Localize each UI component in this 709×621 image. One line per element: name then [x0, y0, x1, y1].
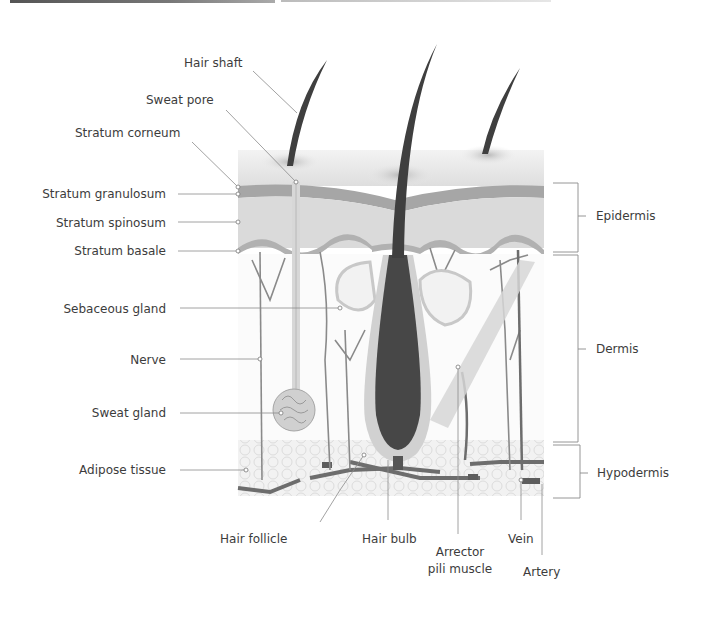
sweat-gland-coil	[273, 389, 315, 431]
label-arrector-pili-line2: pili muscle	[422, 562, 498, 576]
label-nerve: Nerve	[130, 353, 166, 367]
layer-brackets	[553, 183, 588, 498]
label-stratum-basale: Stratum basale	[74, 244, 166, 258]
epidermis-layers	[238, 185, 544, 260]
label-hair-shaft: Hair shaft	[184, 56, 242, 70]
label-sweat-pore: Sweat pore	[146, 93, 214, 107]
hair-shaft-right	[482, 68, 520, 154]
label-sebaceous-gland: Sebaceous gland	[64, 302, 167, 316]
label-stratum-spinosum: Stratum spinosum	[56, 216, 166, 230]
label-sweat-gland: Sweat gland	[92, 406, 166, 420]
label-artery: Artery	[523, 565, 560, 579]
label-hypodermis: Hypodermis	[597, 466, 669, 480]
label-arrector-pili-line1: Arrector	[430, 545, 490, 559]
label-stratum-granulosum: Stratum granulosum	[42, 187, 166, 201]
label-vein: Vein	[508, 532, 534, 546]
label-dermis: Dermis	[596, 342, 639, 356]
label-hair-follicle: Hair follicle	[220, 532, 287, 546]
skin-surface	[238, 145, 544, 187]
label-stratum-corneum: Stratum corneum	[75, 126, 180, 140]
label-adipose-tissue: Adipose tissue	[79, 463, 166, 477]
label-hair-bulb: Hair bulb	[362, 532, 417, 546]
label-epidermis: Epidermis	[596, 209, 656, 223]
